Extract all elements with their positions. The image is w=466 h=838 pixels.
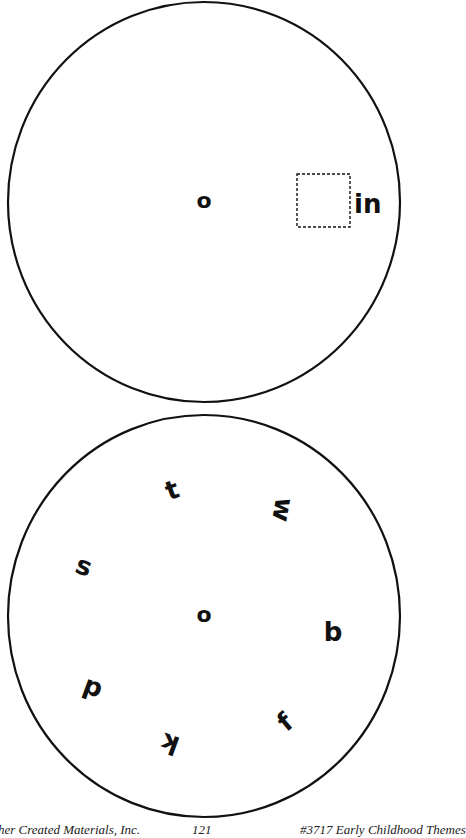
bottom-wheel: o twsbdfk [8, 415, 400, 817]
word-ending: in [354, 189, 381, 219]
letter-slot-box[interactable] [297, 174, 350, 227]
footer-page-number: 121 [192, 822, 212, 838]
onset-letter-t: t [161, 474, 183, 506]
footer-book-title: #3717 Early Childhood Themes [300, 822, 466, 838]
onset-letter-d: d [78, 673, 106, 708]
onset-letter-f: f [271, 706, 299, 737]
onset-letter-b: b [324, 617, 343, 647]
onset-letter-k: k [156, 727, 183, 761]
bottom-center-letter: o [196, 602, 211, 627]
top-wheel: o in [8, 2, 400, 402]
onset-letter-w: w [266, 496, 300, 525]
footer-publisher: ©Teacher Created Materials, Inc. [0, 822, 140, 838]
onset-letter-s: s [72, 549, 97, 582]
top-center-letter: o [196, 188, 211, 213]
